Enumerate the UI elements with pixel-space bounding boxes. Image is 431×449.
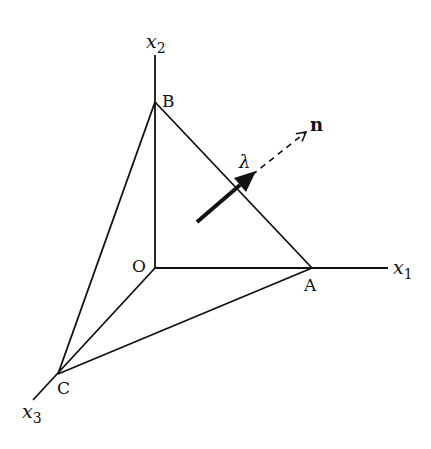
axis-label-x3: x3 [22,400,42,426]
edge-bc [58,102,155,374]
edge-ba [155,102,312,268]
point-label-c: C [57,378,70,398]
point-label-a: A [303,275,317,295]
normal-vector-n [252,132,306,175]
axis-label-x2: x2 [146,30,166,56]
label-lambda: λ [238,151,250,172]
edge-ca [58,268,312,374]
point-label-b: B [162,91,175,111]
point-label-o: O [132,256,146,276]
label-n: n [310,114,323,135]
traction-vector-lambda [197,185,240,222]
axis-label-x1: x1 [393,256,413,282]
tetrahedron-diagram: x2 x1 x3 B O A C λ n [0,0,431,449]
x3-axis [33,268,155,400]
